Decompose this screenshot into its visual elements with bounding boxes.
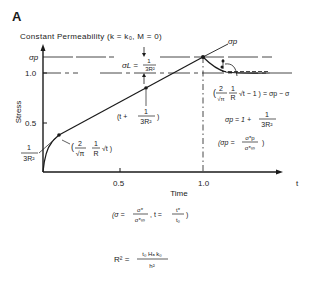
svg-text:(σp =: (σp =	[218, 139, 234, 147]
svg-text:h²: h²	[149, 263, 154, 269]
intercept-annotation: 1 3R²	[21, 138, 56, 162]
early-loading-curve	[43, 135, 59, 172]
svg-text:R: R	[93, 150, 98, 157]
svg-text:√t − 1 ) = σp − σ: √t − 1 ) = σp − σ	[239, 90, 290, 98]
y-axis-arrow-icon	[41, 44, 46, 51]
svg-text:3R²: 3R²	[140, 118, 152, 125]
svg-text:σ*p: σ*p	[245, 135, 255, 141]
x-tick-t: t	[296, 179, 299, 188]
sigma-p-formula: σp = 1 + 1 3R²	[225, 111, 276, 128]
svg-text:): )	[186, 211, 188, 219]
normalization-formula: (σ = σ* σ*∞ , t = t* t₀ )	[112, 207, 188, 223]
y-tick-1-0: 1.0	[25, 69, 37, 78]
svg-text:3R²: 3R²	[23, 155, 35, 162]
y-tick-sigma-p: σp	[29, 53, 39, 62]
x-axis-arrow-icon	[276, 170, 283, 175]
svg-text:1: 1	[94, 140, 98, 147]
svg-text:1: 1	[144, 108, 148, 115]
svg-text:t₀: t₀	[176, 217, 181, 223]
svg-text:, t =: , t =	[150, 211, 162, 218]
panel-label: A	[12, 9, 22, 24]
svg-text:√t ): √t )	[102, 145, 112, 153]
svg-text:σ*∞: σ*∞	[245, 145, 255, 151]
svg-text:σp = 1 +: σp = 1 +	[225, 116, 251, 124]
peak-label: σp	[228, 37, 238, 46]
svg-text:√π: √π	[76, 150, 85, 157]
sigma-p-definition: (σp = σ*p σ*∞ )	[218, 135, 264, 151]
svg-text:1: 1	[231, 85, 235, 92]
svg-text:R² =: R² =	[114, 255, 130, 264]
svg-text:): )	[262, 139, 264, 147]
svg-text:3R²: 3R²	[261, 121, 273, 128]
svg-text:(: (	[213, 88, 216, 98]
svg-text:√π: √π	[217, 96, 224, 102]
svg-text:3R²: 3R²	[145, 66, 155, 72]
r-squared-formula: R² = t₀ Hₐ k₀ h²	[114, 251, 168, 269]
chart-title: Constant Permeability (k = k₀, M = 0)	[20, 32, 162, 41]
x-axis-label: Time	[170, 189, 188, 198]
svg-text:): )	[157, 113, 159, 121]
svg-text:σ*: σ*	[137, 207, 144, 213]
svg-text:(σ =: (σ =	[112, 211, 125, 219]
svg-text:1: 1	[147, 58, 151, 64]
peak-extension	[203, 44, 228, 57]
svg-text:R: R	[230, 94, 235, 101]
svg-text:2: 2	[219, 85, 223, 92]
early-formula: ( 2 √π 1 R √t )	[62, 140, 112, 157]
svg-text:(t +: (t +	[117, 113, 127, 121]
x-tick-1-0: 1.0	[198, 179, 210, 188]
svg-text:1: 1	[27, 144, 31, 151]
x-tick-0-5: 0.5	[113, 179, 125, 188]
svg-text:σ*∞: σ*∞	[135, 217, 145, 223]
svg-text:2: 2	[78, 140, 82, 147]
chart-figure: A Constant Permeability (k = k₀, M = 0) …	[0, 0, 323, 283]
y-axis-label: Stress	[14, 101, 23, 124]
relaxation-curve	[203, 57, 270, 73]
late-formula: (t + 1 3R² )	[117, 90, 159, 125]
relaxation-bracket	[223, 59, 237, 76]
relaxation-formula: ( 2 √π 1 R √t − 1 ) = σp − σ	[213, 85, 290, 102]
y-tick-0-5: 0.5	[25, 119, 37, 128]
svg-text:t*: t*	[176, 207, 181, 213]
svg-text:t₀ Hₐ k₀: t₀ Hₐ k₀	[142, 251, 162, 257]
svg-text:(: (	[71, 142, 74, 152]
sigma-l-label: σL =	[122, 61, 138, 70]
svg-text:1: 1	[265, 111, 269, 118]
